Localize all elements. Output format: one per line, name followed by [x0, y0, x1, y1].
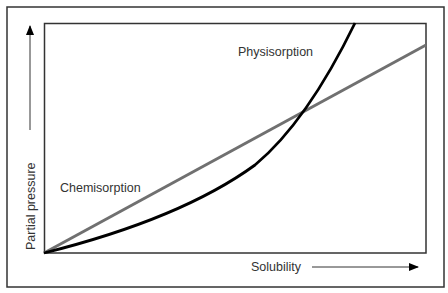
physisorption-label: Physisorption: [238, 45, 313, 59]
plot-area: [45, 24, 427, 254]
chemisorption-label: Chemisorption: [60, 181, 141, 195]
adsorption-diagram: Physisorption Chemisorption Solubility P…: [0, 0, 448, 293]
x-axis-label: Solubility: [251, 260, 302, 274]
chemisorption-curve: [44, 45, 426, 253]
y-axis-label: Partial pressure: [24, 162, 38, 250]
